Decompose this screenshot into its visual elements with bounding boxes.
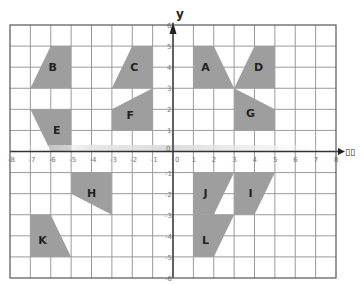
- x-tick-label: 6: [293, 156, 298, 164]
- shape-label: A: [201, 61, 210, 74]
- x-tick-label: -6: [49, 156, 57, 164]
- x-tick-label: 7: [314, 156, 318, 164]
- shape-label: D: [254, 61, 263, 74]
- shape-label: K: [38, 234, 47, 247]
- x-tick-label: -4: [90, 156, 98, 164]
- x-tick-label: 4: [253, 156, 258, 164]
- x-tick-label: -7: [28, 156, 35, 164]
- x-tick-label: 3: [232, 156, 236, 164]
- y-tick-label: -1: [165, 170, 172, 178]
- y-tick-label: -5: [165, 254, 172, 262]
- shape-label: F: [126, 109, 134, 122]
- x-tick-label: -3: [110, 156, 117, 164]
- shape-label: L: [202, 234, 209, 247]
- y-tick-label: 1: [167, 127, 171, 135]
- y-tick-label: -4: [165, 233, 173, 241]
- origin-y-tick-label: 0: [166, 145, 170, 153]
- y-tick-label: -3: [165, 212, 172, 220]
- y-tick-label: 6: [167, 22, 172, 30]
- shape-label: H: [87, 187, 96, 200]
- shape-label: B: [49, 61, 57, 74]
- x-axis-label: ▯▯: [345, 147, 355, 157]
- x-tick-label: -2: [130, 156, 137, 164]
- x-tick-label: 5: [273, 156, 277, 164]
- y-tick-label: 3: [167, 85, 171, 93]
- x-tick-label: -8: [8, 156, 15, 164]
- y-tick-label: -2: [165, 191, 172, 199]
- x-tick-label: 1: [191, 156, 195, 164]
- y-tick-label: -6: [165, 275, 173, 283]
- x-tick-label: 2: [212, 156, 216, 164]
- shape-label: I: [248, 187, 252, 200]
- x-tick-label: -1: [151, 156, 158, 164]
- x-tick-label: 0: [175, 156, 179, 164]
- shape-label: C: [130, 61, 138, 74]
- coordinate-grid-diagram: ABCDEFGHIJKL -8-7-6-5-4-3-2-101234567865…: [0, 0, 364, 285]
- y-tick-label: 4: [167, 64, 172, 72]
- x-tick-label: -5: [69, 156, 76, 164]
- shape-label: E: [53, 124, 61, 137]
- y-tick-label: 2: [167, 106, 171, 114]
- shape-label: G: [246, 107, 255, 120]
- shape-label: J: [203, 187, 208, 200]
- y-tick-label: 5: [167, 43, 171, 51]
- x-axis-arrow-icon: [338, 148, 345, 155]
- y-axis-label: y: [176, 7, 184, 21]
